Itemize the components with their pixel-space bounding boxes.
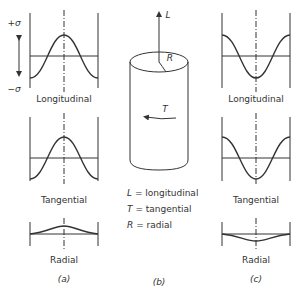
label-c-tangential: Tangential (233, 195, 279, 205)
caption-a: (a) (58, 274, 71, 284)
label-a-longitudinal: Longitudinal (36, 94, 91, 104)
cylinder-label-R: R (167, 53, 173, 63)
stress-distribution-figure: +σ −σ Longitudinal Tangential Radial (a)… (0, 0, 296, 293)
cylinder-label-T: T (162, 104, 168, 114)
caption-b: (b) (153, 277, 166, 287)
minus-sigma-label: −σ (7, 84, 20, 94)
label-c-longitudinal: Longitudinal (228, 94, 283, 104)
plot-c-tangential (222, 113, 290, 184)
plus-sigma-label: +σ (7, 18, 20, 28)
label-a-radial: Radial (50, 255, 78, 265)
label-c-radial: Radial (242, 255, 270, 265)
cylinder-diagram (130, 14, 188, 170)
plot-a-tangential (30, 113, 98, 184)
figure-graphics (0, 0, 296, 293)
plot-c-longitudinal (222, 10, 290, 92)
plot-c-radial (222, 218, 290, 250)
label-a-tangential: Tangential (41, 195, 87, 205)
legend-row-T: T = tangential (127, 204, 192, 214)
caption-c: (c) (250, 274, 262, 284)
legend-row-L: L = longitudinal (127, 188, 198, 198)
plot-a-longitudinal (19, 10, 98, 92)
legend-row-R: R = radial (127, 220, 172, 230)
cylinder-label-L: L (165, 10, 170, 20)
plot-a-radial (30, 218, 98, 250)
